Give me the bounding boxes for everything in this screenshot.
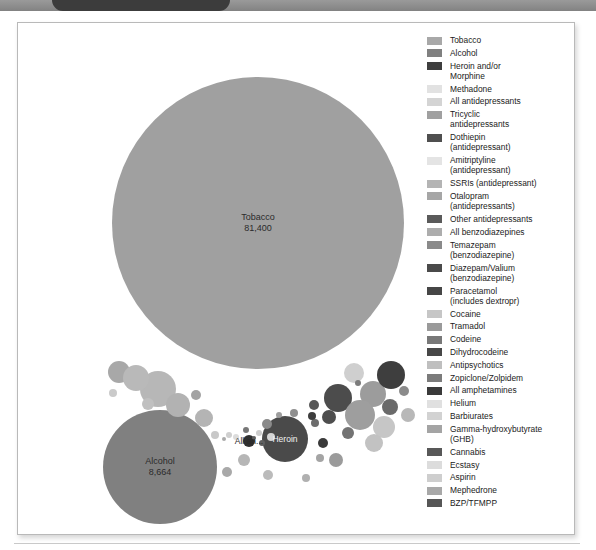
legend-label: Tricyclic antidepressants: [450, 109, 509, 129]
page-background: [0, 11, 596, 22]
legend-item[interactable]: All amphetamines: [427, 385, 575, 395]
figure-panel: Tobacco81,400Alcohol8,664HeroinAll an...…: [17, 22, 575, 535]
legend-label: BZP/TFMPP: [450, 498, 497, 508]
bubble: [259, 440, 265, 446]
legend-swatch-icon: [427, 264, 442, 272]
bubble: [226, 432, 232, 438]
legend-swatch-icon: [427, 49, 442, 57]
legend-item[interactable]: Tricyclic antidepressants: [427, 109, 575, 129]
legend-swatch-icon: [427, 310, 442, 318]
legend-item[interactable]: Barbiurates: [427, 411, 575, 421]
legend-item[interactable]: Otalopram (antidepressants): [427, 191, 575, 211]
bubble: [211, 431, 219, 439]
legend-item[interactable]: Cannabis: [427, 447, 575, 457]
bubble: [311, 419, 319, 427]
bubble: [316, 454, 324, 462]
legend-item[interactable]: Heroin and/or Morphine: [427, 61, 575, 81]
legend-label: Temazepam (benzodiazepine): [450, 240, 514, 260]
legend-label: Other antidepressants: [450, 214, 532, 224]
legend-swatch-icon: [427, 461, 442, 469]
legend-item[interactable]: SSRIs (antidepressant): [427, 178, 575, 188]
legend-item[interactable]: Paracetamol (includes dextropr): [427, 286, 575, 306]
browser-tab[interactable]: [52, 0, 230, 11]
legend-swatch-icon: [427, 85, 442, 93]
chart-legend: TobaccoAlcoholHeroin and/or MorphineMeth…: [427, 35, 575, 511]
legend-swatch-icon: [427, 487, 442, 495]
legend-item[interactable]: Mephedrone: [427, 485, 575, 495]
legend-item[interactable]: Tramadol: [427, 321, 575, 331]
bubble: [399, 386, 409, 396]
legend-label: Mephedrone: [450, 485, 497, 495]
legend-item[interactable]: Amitriptyline (antidepressant): [427, 155, 575, 175]
legend-item[interactable]: All antidepressants: [427, 96, 575, 106]
bubble: [365, 434, 383, 452]
legend-item[interactable]: Codeine: [427, 334, 575, 344]
legend-label: Tramadol: [450, 321, 485, 331]
legend-item[interactable]: Alcohol: [427, 48, 575, 58]
legend-label: All benzodiazepines: [450, 227, 525, 237]
legend-swatch-icon: [427, 387, 442, 395]
legend-label: Paracetamol (includes dextropr): [450, 286, 519, 306]
legend-item[interactable]: BZP/TFMPP: [427, 498, 575, 508]
legend-label: Tobacco: [450, 35, 481, 45]
bubble-chart-plot-area: Tobacco81,400Alcohol8,664HeroinAll an...: [18, 23, 418, 534]
bubble: [238, 454, 250, 466]
legend-item[interactable]: Other antidepressants: [427, 214, 575, 224]
legend-label: Dothiepin (antidepressant): [450, 132, 511, 152]
bubble: [123, 365, 149, 391]
legend-label: SSRIs (antidepressant): [450, 178, 537, 188]
bubble: [276, 412, 282, 418]
bubble: [191, 390, 201, 400]
legend-item[interactable]: Zopiclone/Zolpidem: [427, 373, 575, 383]
legend-swatch-icon: [427, 37, 442, 45]
legend-item[interactable]: Diazepam/Valium (benzodiazepine): [427, 263, 575, 283]
bubble: [401, 408, 415, 422]
legend-item[interactable]: Dothiepin (antidepressant): [427, 132, 575, 152]
legend-swatch-icon: [427, 98, 442, 106]
legend-item[interactable]: Dihydrocodeine: [427, 347, 575, 357]
bubble: [318, 438, 328, 448]
bubble: [166, 393, 190, 417]
legend-label: Helium: [450, 398, 476, 408]
legend-label: All amphetamines: [450, 385, 517, 395]
legend-item[interactable]: Tobacco: [427, 35, 575, 45]
legend-item[interactable]: Antipsychotics: [427, 360, 575, 370]
legend-swatch-icon: [427, 180, 442, 188]
legend-label: All antidepressants: [450, 96, 521, 106]
legend-item[interactable]: Cocaine: [427, 309, 575, 319]
bubble: [344, 363, 364, 383]
legend-item[interactable]: Helium: [427, 398, 575, 408]
bubble: [290, 409, 298, 417]
bubble: [233, 434, 239, 440]
legend-swatch-icon: [427, 228, 442, 236]
legend-item[interactable]: Temazepam (benzodiazepine): [427, 240, 575, 260]
bubble: [302, 474, 310, 482]
bubble: [112, 77, 404, 369]
legend-label: Cannabis: [450, 447, 485, 457]
legend-swatch-icon: [427, 323, 442, 331]
legend-label: Aspirin: [450, 472, 476, 482]
legend-item[interactable]: Ecstasy: [427, 460, 575, 470]
legend-label: Alcohol: [450, 48, 477, 58]
legend-item[interactable]: Aspirin: [427, 472, 575, 482]
bubble: [345, 400, 375, 430]
legend-swatch-icon: [427, 215, 442, 223]
legend-item[interactable]: All benzodiazepines: [427, 227, 575, 237]
browser-toolbar[interactable]: [0, 0, 596, 11]
legend-swatch-icon: [427, 134, 442, 142]
legend-label: Amitriptyline (antidepressant): [450, 155, 511, 175]
bubble: [309, 400, 319, 410]
legend-item[interactable]: Gamma-hydroxybutyrate (GHB): [427, 424, 575, 444]
bubble: [195, 409, 213, 427]
legend-item[interactable]: Methadone: [427, 84, 575, 94]
bubble: [322, 410, 336, 424]
bubble: [382, 399, 398, 415]
bubble: [267, 433, 275, 441]
legend-swatch-icon: [427, 241, 442, 249]
legend-swatch-icon: [427, 287, 442, 295]
legend-label: Diazepam/Valium (benzodiazepine): [450, 263, 515, 283]
legend-label: Otalopram (antidepressants): [450, 191, 515, 211]
bubble: [377, 361, 405, 389]
legend-label: Methadone: [450, 84, 492, 94]
legend-swatch-icon: [427, 499, 442, 507]
